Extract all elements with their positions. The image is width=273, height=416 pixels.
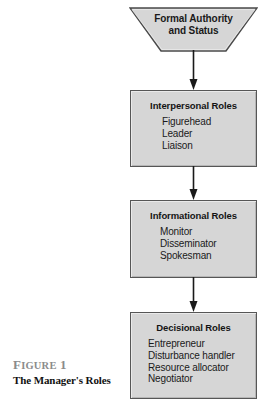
connector-arrow-2 <box>189 166 198 201</box>
figure-number-index: 1 <box>60 357 67 372</box>
list-item: Spokesman <box>160 250 256 262</box>
node-interpersonal-roles: Interpersonal Roles Figurehead Leader Li… <box>130 90 257 167</box>
figure-manager-roles: Formal Authority and Status Interpersona… <box>0 0 273 416</box>
list-item: Disseminator <box>160 238 256 250</box>
node-informational-roles-title: Informational Roles <box>131 210 256 221</box>
node-interpersonal-roles-title: Interpersonal Roles <box>131 100 256 111</box>
node-interpersonal-roles-list: Figurehead Leader Liaison <box>131 116 256 151</box>
arrow-down-icon <box>189 50 198 91</box>
formal-authority-line-2: and Status <box>168 25 218 36</box>
figure-number: FIGURE 1 <box>13 357 125 373</box>
node-formal-authority: Formal Authority and Status <box>129 7 258 52</box>
list-item: Figurehead <box>162 116 256 128</box>
figure-number-rest: IGURE <box>21 360 56 371</box>
node-formal-authority-label: Formal Authority and Status <box>129 13 258 36</box>
arrow-down-icon <box>189 277 198 313</box>
connector-arrow-3 <box>189 277 198 313</box>
node-informational-roles-list: Monitor Disseminator Spokesman <box>131 226 256 261</box>
node-decisional-roles-list: Entrepreneur Disturbance handler Resourc… <box>131 338 256 385</box>
figure-caption: FIGURE 1 The Manager's Roles <box>13 357 125 387</box>
list-item: Entrepreneur <box>148 338 256 350</box>
formal-authority-line-1: Formal Authority <box>154 13 233 24</box>
node-decisional-roles: Decisional Roles Entrepreneur Disturbanc… <box>130 312 257 399</box>
list-item: Negotiator <box>148 373 256 385</box>
connector-arrow-1 <box>189 50 198 91</box>
node-informational-roles: Informational Roles Monitor Disseminator… <box>130 200 257 278</box>
figure-number-lead: F <box>13 357 21 372</box>
node-decisional-roles-title: Decisional Roles <box>131 322 256 333</box>
list-item: Liaison <box>162 140 256 152</box>
list-item: Monitor <box>160 226 256 238</box>
list-item: Disturbance handler <box>148 350 256 362</box>
list-item: Leader <box>162 128 256 140</box>
arrow-down-icon <box>189 166 198 201</box>
figure-title: The Manager's Roles <box>13 374 125 387</box>
list-item: Resource allocator <box>148 362 256 374</box>
